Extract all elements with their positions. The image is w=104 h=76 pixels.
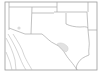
highlight-new-mexico-spot: [17, 26, 20, 29]
outline-map: [0, 0, 104, 76]
map-container: [0, 0, 104, 76]
